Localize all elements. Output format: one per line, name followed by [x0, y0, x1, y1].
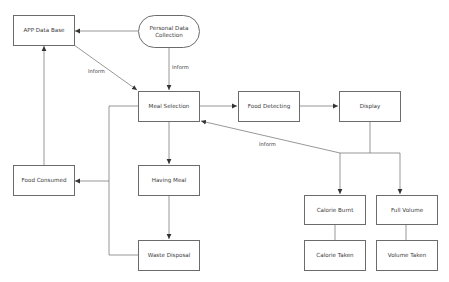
- node-label: Calorie Burnt: [317, 207, 354, 214]
- node-label: Display: [360, 103, 381, 110]
- node-label: Calorie Taken: [316, 252, 353, 259]
- node-food-consumed[interactable]: Food Consumed: [13, 165, 75, 196]
- node-label: Volume Taken: [388, 252, 427, 259]
- node-calorie-taken[interactable]: Calorie Taken: [304, 240, 366, 271]
- node-label: Meal Selection: [149, 103, 190, 110]
- node-volume-taken[interactable]: Volume Taken: [376, 240, 438, 271]
- edge-meal-waste-spine: [109, 106, 138, 255]
- node-having-meal[interactable]: Having Meal: [138, 165, 200, 196]
- node-waste-disposal[interactable]: Waste Disposal: [138, 240, 200, 271]
- node-food-detecting[interactable]: Food Detecting: [238, 91, 300, 122]
- node-display[interactable]: Display: [339, 91, 401, 122]
- node-label: Food Consumed: [22, 177, 67, 184]
- edge-branch-to-meal: [201, 121, 340, 153]
- node-label: Having Meal: [152, 177, 187, 184]
- node-label: Personal Data Collection: [149, 25, 189, 39]
- node-label: Waste Disposal: [148, 252, 191, 259]
- edge-appdb-to-meal: [74, 45, 137, 90]
- edge-label-calorie-inform: Inform: [259, 141, 276, 147]
- node-app-data-base[interactable]: APP Data Base: [13, 15, 75, 46]
- node-full-volume[interactable]: Full Volume: [376, 195, 438, 225]
- node-calorie-burnt[interactable]: Calorie Burnt: [304, 195, 366, 225]
- node-label: Full Volume: [391, 207, 423, 214]
- edge-label-personal-inform: Inform: [172, 64, 189, 70]
- node-meal-selection[interactable]: Meal Selection: [138, 91, 200, 122]
- node-label: APP Data Base: [23, 27, 64, 34]
- edge-label-appdb-inform: Inform: [88, 68, 105, 74]
- node-personal-data-collection[interactable]: Personal Data Collection: [138, 15, 200, 48]
- node-label: Food Detecting: [248, 103, 291, 110]
